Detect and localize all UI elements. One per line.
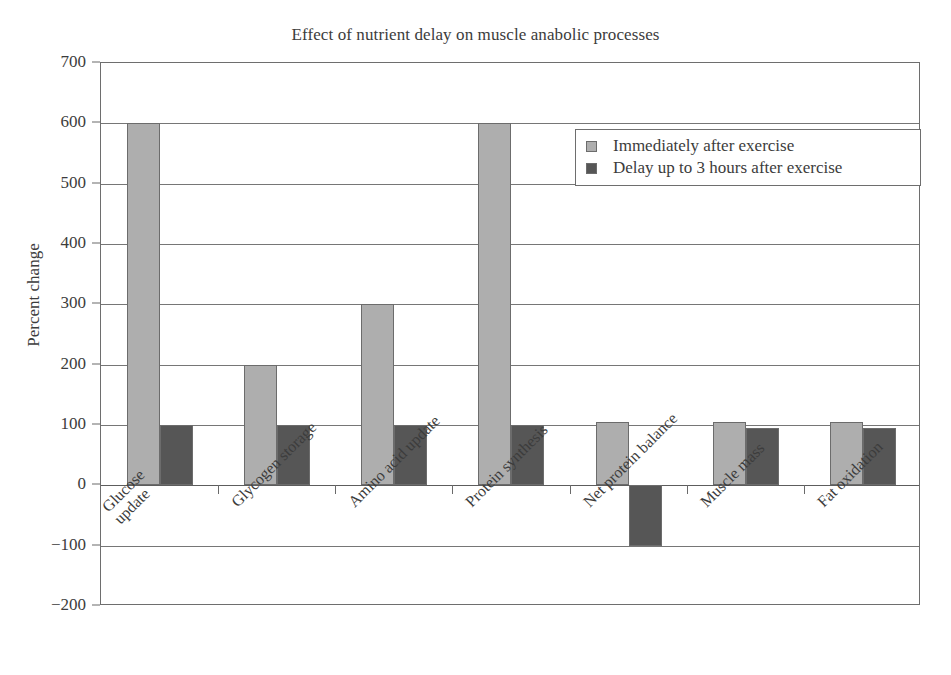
bar [127,123,160,485]
chart-figure: Effect of nutrient delay on muscle anabo… [0,0,951,675]
legend-item[interactable]: Delay up to 3 hours after exercise [586,157,914,179]
chart-legend: Immediately after exercise Delay up to 3… [575,129,921,186]
y-axis-tick-label: 600 [28,112,86,132]
gridline [101,546,919,547]
legend-label: Immediately after exercise [613,136,794,156]
bar [160,425,193,485]
y-axis-tick-label: 0 [28,474,86,494]
y-axis-tick-mark [92,303,100,304]
category-tick [218,485,219,494]
category-tick [452,485,453,494]
y-axis-tick-mark [92,62,100,63]
category-tick [570,485,571,494]
category-tick [804,485,805,494]
y-axis-tick-mark [92,122,100,123]
y-axis-tick-label: 700 [28,52,86,72]
bar [629,485,662,545]
y-axis-tick-mark [92,605,100,606]
y-axis-tick-mark [92,243,100,244]
legend-label: Delay up to 3 hours after exercise [613,158,842,178]
legend-item[interactable]: Immediately after exercise [586,135,914,157]
y-axis-tick-label: −100 [28,535,86,555]
y-axis-tick-mark [92,363,100,364]
y-axis-tick-label: 200 [28,354,86,374]
y-axis-tick-label: 100 [28,414,86,434]
y-axis-tick-mark [92,484,100,485]
y-axis-tick-mark [92,544,100,545]
legend-swatch-immediately-after-exercise [586,141,597,152]
bar [478,123,511,485]
category-tick [335,485,336,494]
y-axis-tick-label: 400 [28,233,86,253]
category-tick [687,485,688,494]
y-axis-tick-mark [92,182,100,183]
y-axis-tick-label: 300 [28,293,86,313]
y-axis-tick-label: 500 [28,173,86,193]
gridline [101,485,919,486]
y-axis-tick-label: −200 [28,595,86,615]
chart-title: Effect of nutrient delay on muscle anabo… [0,25,951,45]
y-axis-tick-mark [92,424,100,425]
legend-swatch-delay-up-to-3-hours-after-exercise [586,163,597,174]
